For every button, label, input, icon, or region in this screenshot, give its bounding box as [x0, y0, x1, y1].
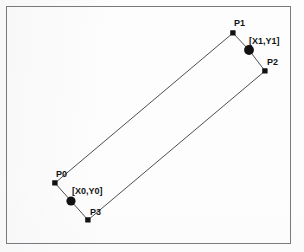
anchor-handle-xy0[interactable]	[66, 196, 75, 205]
point-label-p1: P1	[234, 19, 245, 28]
point-marker-p2[interactable]	[262, 68, 267, 73]
anchor-handle-xy1[interactable]	[244, 45, 254, 55]
point-label-p0: P0	[56, 170, 67, 179]
anchor-handle-group	[66, 45, 254, 206]
coord-label-xy1: [X1,Y1]	[249, 37, 280, 46]
point-label-p3: P3	[90, 208, 101, 217]
point-marker-p0[interactable]	[52, 180, 57, 185]
point-marker-p1[interactable]	[230, 30, 235, 35]
edge-p2-p3	[88, 71, 265, 220]
point-marker-p3[interactable]	[85, 217, 90, 222]
edge-p0-p1	[55, 33, 233, 183]
figure-root: P1 P2 P0 P3 [X1,Y1] [X0,Y0]	[0, 0, 304, 252]
coord-label-xy0: [X0,Y0]	[72, 187, 103, 196]
point-label-p2: P2	[267, 58, 278, 67]
